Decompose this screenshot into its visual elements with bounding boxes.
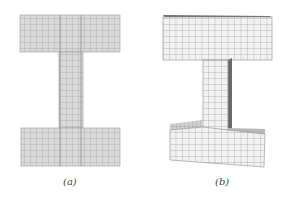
- top-flange: [20, 15, 120, 52]
- caption-a: (a): [63, 176, 77, 187]
- figure-canvas: [0, 0, 287, 202]
- panel-a-mesh: [20, 15, 120, 166]
- caption-b: (b): [215, 176, 229, 187]
- bottom-flange: [21, 128, 120, 166]
- bottom-flange-front: [170, 127, 265, 167]
- panel-b-mesh: [163, 15, 272, 167]
- web: [59, 52, 83, 128]
- web-front: [203, 60, 228, 130]
- top-flange-front: [163, 17, 272, 60]
- web-side-face: [228, 58, 232, 130]
